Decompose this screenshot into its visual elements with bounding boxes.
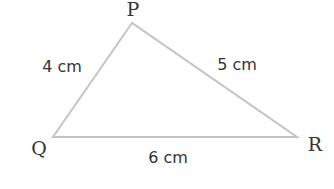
vertex-label-r: R	[308, 133, 323, 155]
triangle-pqr	[53, 23, 297, 137]
vertex-label-p: P	[127, 0, 140, 20]
side-label-pr: 5 cm	[217, 55, 257, 74]
side-label-pq: 4 cm	[42, 57, 82, 76]
triangle-diagram: P Q R 4 cm 5 cm 6 cm	[0, 0, 334, 189]
side-label-qr: 6 cm	[148, 148, 188, 167]
vertex-label-q: Q	[31, 137, 47, 159]
